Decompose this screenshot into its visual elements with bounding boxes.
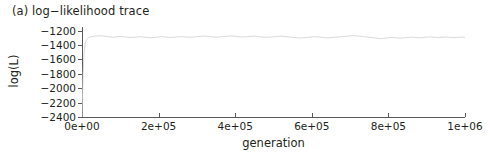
x-tick-label: 4e+05 — [218, 120, 253, 132]
x-tick-label: 2e+05 — [141, 120, 176, 132]
y-tick-label: −1600 — [40, 53, 76, 65]
y-tick-label: −1800 — [40, 68, 76, 80]
y-tick-label: −1200 — [40, 25, 76, 37]
y-tick-label-group: −1200−1400−1600−1800−2000−2200−2400 — [0, 0, 76, 158]
plot-area — [82, 27, 465, 117]
y-tick-label: −2200 — [40, 97, 76, 109]
y-tick-mark — [78, 117, 82, 118]
log-likelihood-trace-line — [82, 27, 465, 117]
y-tick-label: −2000 — [40, 82, 76, 94]
x-tick-label: 6e+05 — [294, 120, 329, 132]
trace-polyline — [82, 36, 465, 117]
x-tick-label: 8e+05 — [371, 120, 406, 132]
x-tick-mark — [465, 113, 466, 117]
x-axis-title: generation — [82, 136, 465, 150]
x-tick-label: 1e+06 — [447, 120, 482, 132]
log-likelihood-trace-figure: (a) log−likelihood trace log(L) −1200−14… — [0, 0, 490, 158]
x-tick-label: 0e+00 — [64, 120, 99, 132]
y-tick-label: −1400 — [40, 39, 76, 51]
x-axis-line — [82, 117, 465, 118]
